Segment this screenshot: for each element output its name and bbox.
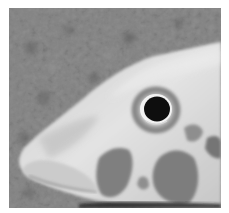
fish-photograph: Grayscale close-up photograph of a fish … [9,8,221,208]
fish-photo-illustration [9,8,221,208]
